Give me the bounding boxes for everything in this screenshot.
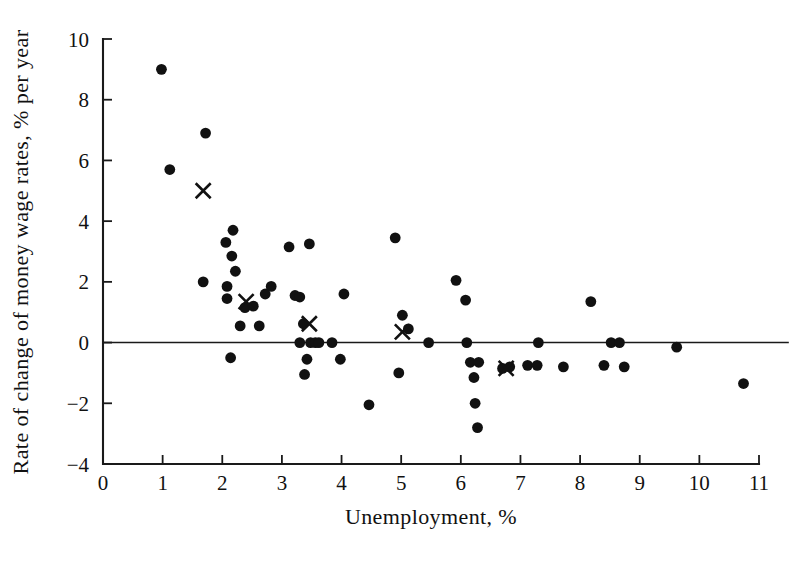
- dot-data-point: [302, 354, 313, 365]
- dot-data-point: [156, 64, 167, 75]
- dot-data-point: [226, 251, 237, 262]
- dot-data-point: [522, 360, 533, 371]
- x-tick-label: 9: [634, 471, 645, 495]
- y-tick-label: 4: [79, 210, 90, 234]
- dot-data-point: [390, 232, 401, 243]
- x-tick-label: 0: [98, 471, 109, 495]
- y-tick-label: 2: [79, 270, 90, 294]
- dot-data-point: [558, 361, 569, 372]
- dot-data-point: [200, 128, 211, 139]
- x-tick-label: 10: [689, 471, 710, 495]
- dot-data-point: [532, 360, 543, 371]
- data-points: [156, 64, 749, 433]
- dot-data-point: [304, 239, 315, 250]
- y-tick-label: −4: [67, 453, 90, 477]
- dot-data-point: [364, 399, 375, 410]
- dot-data-point: [585, 296, 596, 307]
- dot-data-point: [339, 289, 350, 300]
- dot-data-point: [619, 361, 630, 372]
- dot-data-point: [397, 310, 408, 321]
- x-axis-title: Unemployment, %: [345, 504, 517, 529]
- y-tick-label: 6: [79, 149, 90, 173]
- cross-data-point: [196, 183, 211, 198]
- dot-data-point: [533, 337, 544, 348]
- dot-data-point: [254, 320, 265, 331]
- dot-data-point: [460, 295, 471, 306]
- x-tick-label: 11: [749, 471, 769, 495]
- dot-data-point: [222, 281, 233, 292]
- dot-data-point: [472, 422, 483, 433]
- y-tick-label: −2: [67, 392, 89, 416]
- dot-data-point: [313, 337, 324, 348]
- axes: [103, 39, 759, 464]
- series-observations: [156, 64, 749, 433]
- x-tick-label: 5: [396, 471, 407, 495]
- dot-data-point: [614, 337, 625, 348]
- dot-data-point: [164, 164, 175, 175]
- phillips-curve-figure: −4−2024681001234567891011 Unemployment, …: [0, 0, 801, 561]
- dot-data-point: [228, 225, 239, 236]
- dot-data-point: [423, 337, 434, 348]
- dot-data-point: [299, 369, 310, 380]
- y-tick-label: 0: [79, 331, 90, 355]
- dot-data-point: [473, 357, 484, 368]
- y-axis-title: Rate of change of money wage rates, % pe…: [8, 29, 33, 474]
- y-tick-label: 8: [79, 88, 90, 112]
- dot-data-point: [327, 337, 338, 348]
- dot-data-point: [294, 337, 305, 348]
- dot-data-point: [284, 242, 295, 253]
- dot-data-point: [469, 372, 480, 383]
- dot-data-point: [266, 281, 277, 292]
- x-tick-label: 6: [456, 471, 467, 495]
- dot-data-point: [599, 360, 610, 371]
- dot-data-point: [222, 293, 233, 304]
- x-tick-label: 8: [575, 471, 586, 495]
- x-tick-label: 4: [336, 471, 347, 495]
- dot-data-point: [451, 275, 462, 286]
- dot-data-point: [235, 320, 246, 331]
- x-tick-label: 2: [217, 471, 228, 495]
- dot-data-point: [461, 337, 472, 348]
- dot-data-point: [220, 237, 231, 248]
- dot-data-point: [393, 368, 404, 379]
- dot-data-point: [198, 276, 209, 287]
- scatter-plot: −4−2024681001234567891011 Unemployment, …: [0, 0, 801, 561]
- dot-data-point: [225, 352, 236, 363]
- dot-data-point: [470, 398, 481, 409]
- dot-data-point: [671, 342, 682, 353]
- dot-data-point: [294, 292, 305, 303]
- x-tick-label: 7: [515, 471, 526, 495]
- x-tick-label: 1: [157, 471, 168, 495]
- x-tick-label: 3: [277, 471, 288, 495]
- tick-labels: −4−2024681001234567891011: [67, 28, 769, 496]
- axis-ticks: [103, 39, 759, 464]
- dot-data-point: [335, 354, 346, 365]
- dot-data-point: [738, 378, 749, 389]
- dot-data-point: [230, 266, 241, 277]
- y-tick-label: 10: [68, 28, 89, 52]
